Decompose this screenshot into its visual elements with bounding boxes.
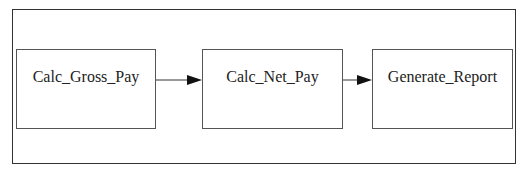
edges-layer	[0, 0, 530, 170]
arrow-icon	[156, 75, 202, 85]
arrow-icon	[343, 75, 372, 85]
